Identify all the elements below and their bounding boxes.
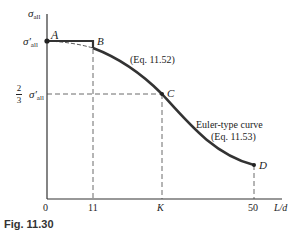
x-tick-50: 50 [248,203,258,213]
y-axis-label: σall [28,8,40,21]
label-A: A [51,29,58,41]
x-tick-K: K [157,203,164,213]
annotation-eq-11-52: (Eq. 11.52) [130,55,175,65]
y-tick-two-thirds-fraction: 23 [16,84,22,105]
chart-canvas [0,0,307,235]
point-D [252,163,256,167]
x-tick-0: 0 [43,203,48,213]
label-B: B [97,36,104,47]
point-C [160,92,164,96]
label-C: C [167,88,174,99]
label-D: D [259,160,267,171]
point-A [44,38,49,43]
segment-A-B [47,41,93,48]
x-axis-label: L/d [274,203,287,213]
annotation-euler-line2: (Eq. 11.53) [211,132,256,142]
annotation-euler-line1: Euler-type curve [196,120,263,130]
x-tick-11: 11 [88,203,98,213]
figure-caption: Fig. 11.30 [4,218,54,230]
y-tick-two-thirds-sigma: σ′all [29,89,44,102]
y-tick-sigma-all-prime: σ′all [23,36,38,49]
